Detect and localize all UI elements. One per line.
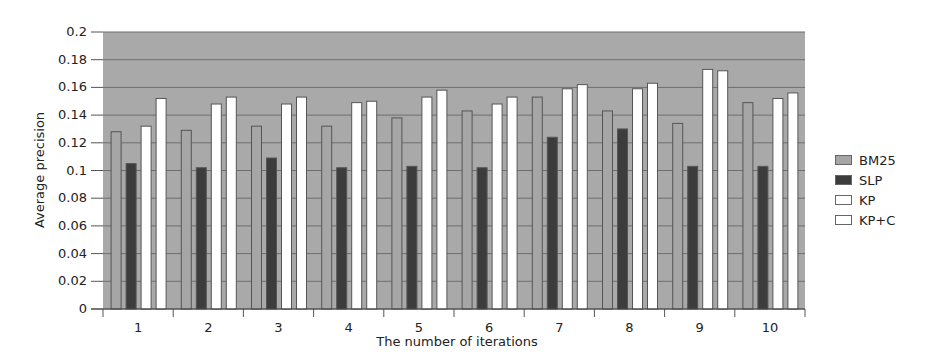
x-axis: 12345678910	[91, 309, 805, 335]
bar-bm25	[111, 132, 121, 309]
y-tick-label: 0.06	[58, 218, 87, 233]
bar-slp	[547, 137, 557, 309]
bar-kp	[562, 89, 572, 309]
legend-item-slp: SLP	[835, 170, 896, 190]
bar-bm25	[181, 130, 191, 309]
bar-slp	[618, 129, 628, 309]
bar-kp-c	[297, 97, 307, 309]
y-tick-label: 0.04	[58, 246, 87, 261]
legend-item-kp: KP	[835, 190, 896, 210]
legend-swatch	[835, 175, 852, 185]
bar-bm25	[462, 111, 472, 309]
bar-kp-c	[437, 90, 447, 309]
x-axis-title: The number of iterations	[375, 334, 538, 349]
bar-kp	[703, 69, 713, 309]
bar-bm25	[392, 118, 402, 309]
legend-swatch	[835, 155, 852, 165]
bar-bm25	[603, 111, 613, 309]
x-tick-label: 10	[762, 320, 779, 335]
bar-kp-c	[156, 98, 166, 309]
bar-slp	[688, 166, 698, 309]
bar-slp	[758, 166, 768, 309]
bar-kp	[141, 126, 151, 309]
bar-kp	[492, 104, 502, 309]
y-tick-label: 0.12	[58, 135, 87, 150]
bar-kp-c	[788, 93, 798, 309]
x-tick-label: 6	[485, 320, 493, 335]
y-tick-label: 0.1	[66, 163, 87, 178]
bar-kp-c	[507, 97, 517, 309]
bar-kp	[211, 104, 221, 309]
y-tick-label: 0.02	[58, 273, 87, 288]
bar-bm25	[743, 103, 753, 309]
y-axis: 00.020.040.060.080.10.120.140.160.180.2	[58, 24, 103, 316]
bar-bm25	[252, 126, 262, 309]
y-axis-title: Average precision	[32, 112, 47, 228]
bar-chart: 00.020.040.060.080.10.120.140.160.180.2 …	[0, 0, 929, 362]
bar-bm25	[673, 123, 683, 309]
bar-kp-c	[577, 85, 587, 309]
legend: BM25 SLP KP KP+C	[835, 150, 896, 230]
x-tick-label: 9	[696, 320, 704, 335]
bar-bm25	[532, 97, 542, 309]
legend-label: BM25	[859, 153, 896, 168]
legend-label: KP+C	[859, 213, 895, 228]
bar-slp	[126, 164, 136, 309]
bar-kp	[282, 104, 292, 309]
bar-slp	[196, 168, 206, 309]
bar-kp	[352, 103, 362, 309]
bar-slp	[267, 158, 277, 309]
x-tick-label: 1	[134, 320, 142, 335]
legend-swatch	[835, 215, 852, 225]
bar-slp	[337, 168, 347, 309]
x-tick-label: 8	[625, 320, 633, 335]
legend-swatch	[835, 195, 852, 205]
x-tick-label: 2	[204, 320, 212, 335]
legend-label: KP	[859, 193, 875, 208]
y-tick-label: 0.16	[58, 79, 87, 94]
bar-bm25	[322, 126, 332, 309]
bar-kp	[773, 98, 783, 309]
x-tick-label: 7	[555, 320, 563, 335]
bar-kp	[422, 97, 432, 309]
legend-item-bm25: BM25	[835, 150, 896, 170]
bar-kp-c	[226, 97, 236, 309]
y-tick-label: 0.2	[66, 24, 87, 39]
bar-kp-c	[648, 83, 658, 309]
x-tick-label: 5	[415, 320, 423, 335]
plot-area	[103, 32, 805, 309]
legend-label: SLP	[859, 173, 882, 188]
x-tick-label: 3	[274, 320, 282, 335]
y-tick-label: 0.08	[58, 190, 87, 205]
bar-slp	[407, 166, 417, 309]
bar-kp	[633, 89, 643, 309]
y-tick-label: 0	[79, 301, 87, 316]
legend-item-kp-c: KP+C	[835, 210, 896, 230]
y-tick-label: 0.14	[58, 107, 87, 122]
y-tick-label: 0.18	[58, 52, 87, 67]
bar-kp-c	[367, 101, 377, 309]
bar-kp-c	[718, 71, 728, 309]
x-tick-label: 4	[345, 320, 353, 335]
bar-slp	[477, 168, 487, 309]
